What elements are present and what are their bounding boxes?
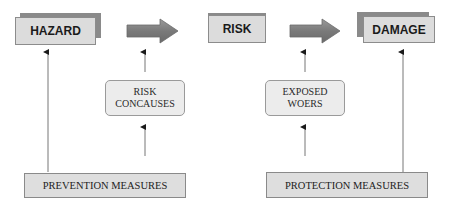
protection-measures-label: PROTECTION MEASURES <box>285 180 409 191</box>
damage-box: DAMAGE <box>363 16 435 43</box>
risk-concauses-box: RISK CONCAUSES <box>105 80 185 116</box>
protection-measures-box: PROTECTION MEASURES <box>266 172 428 198</box>
exposed-woers-line-2: WOERS <box>282 98 327 110</box>
prevention-measures-box: PREVENTION MEASURES <box>24 173 186 198</box>
block-arrow-hazard-to-risk-icon <box>127 19 178 43</box>
prevention-measures-label: PREVENTION MEASURES <box>43 180 168 191</box>
exposed-woers-box: EXPOSED WOERS <box>265 80 345 116</box>
risk-concauses-line-2: CONCAUSES <box>115 98 174 110</box>
hazard-label: HAZARD <box>30 24 81 38</box>
damage-label: DAMAGE <box>372 23 425 37</box>
risk-label: RISK <box>223 22 252 36</box>
risk-box: RISK <box>208 15 266 43</box>
exposed-woers-line-1: EXPOSED <box>282 86 327 98</box>
hazard-box: HAZARD <box>15 17 96 45</box>
risk-concauses-line-1: RISK <box>115 86 174 98</box>
hazard-risk-damage-diagram: HAZARD RISK DAMAGE RISK CONCAUSES EXPOSE… <box>0 0 450 214</box>
block-arrow-risk-to-damage-icon <box>290 19 340 43</box>
